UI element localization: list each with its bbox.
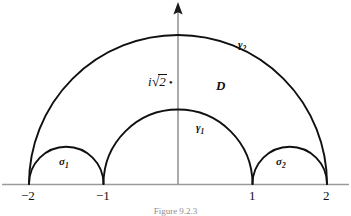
curve-label-gamma1: γ1 bbox=[196, 122, 204, 136]
tick-label-minus-2: −2 bbox=[21, 189, 35, 202]
curve-label-sigma1: σ1 bbox=[59, 156, 69, 170]
arc-sigma2 bbox=[253, 147, 328, 184]
sigma2-subscript: 2 bbox=[282, 161, 286, 170]
figure-caption: Figure 9.2.3 bbox=[0, 206, 351, 216]
region-label-D: D bbox=[216, 79, 225, 92]
figure-container: −2 −1 1 2 γ2 γ1 σ1 σ2 D i√2• Figure 9.2.… bbox=[0, 0, 351, 216]
tick-label-1: 1 bbox=[249, 189, 256, 202]
sigma1-subscript: 1 bbox=[65, 161, 69, 170]
point-label-i-sqrt2: i√2• bbox=[148, 74, 173, 89]
tick-label-2: 2 bbox=[323, 189, 330, 202]
curve-label-sigma2: σ2 bbox=[276, 156, 286, 170]
curve-label-gamma2: γ2 bbox=[238, 39, 246, 53]
figure-drawing bbox=[0, 0, 351, 216]
gamma2-subscript: 2 bbox=[243, 44, 247, 53]
point-dot-icon: • bbox=[169, 76, 173, 88]
gamma1-subscript: 1 bbox=[201, 127, 205, 136]
tick-label-minus-1: −1 bbox=[96, 189, 110, 202]
radicand: 2 bbox=[158, 74, 167, 88]
